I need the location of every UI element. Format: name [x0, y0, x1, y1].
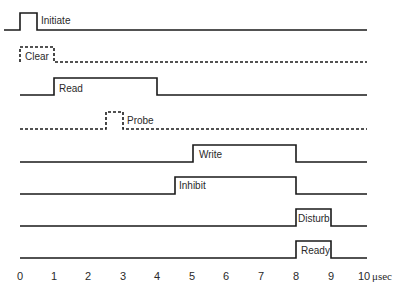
write-waveform	[20, 145, 367, 162]
tick-1: 1	[51, 270, 57, 282]
signal-disturb: Disturb	[20, 209, 367, 226]
signal-clear: Clear	[20, 47, 367, 62]
clear-waveform	[20, 47, 367, 62]
time-unit-label: μsec	[372, 270, 392, 282]
time-axis: 0 1 2 3 4 5 6 7 8 9 10 μsec	[17, 270, 392, 282]
signal-initiate: Initiate	[4, 13, 367, 30]
tick-7: 7	[258, 270, 264, 282]
disturb-label: Disturb	[298, 213, 330, 224]
tick-6: 6	[223, 270, 229, 282]
write-label: Write	[199, 149, 223, 160]
tick-4: 4	[154, 270, 160, 282]
clear-label: Clear	[25, 51, 50, 62]
signal-inhibit: Inhibit	[20, 177, 367, 194]
initiate-label: Initiate	[41, 15, 71, 26]
signal-write: Write	[20, 145, 367, 162]
signal-ready: Ready	[20, 241, 367, 258]
probe-label: Probe	[127, 115, 154, 126]
tick-3: 3	[120, 270, 126, 282]
read-label: Read	[59, 83, 83, 94]
probe-waveform	[20, 112, 367, 129]
tick-9: 9	[328, 270, 334, 282]
tick-8: 8	[293, 270, 299, 282]
signal-read: Read	[20, 78, 367, 95]
timing-diagram: Initiate Clear Read Probe Write Inhibit …	[0, 0, 400, 300]
tick-0: 0	[17, 270, 23, 282]
tick-5: 5	[189, 270, 195, 282]
inhibit-label: Inhibit	[179, 180, 206, 191]
tick-2: 2	[85, 270, 91, 282]
tick-10: 10	[358, 270, 370, 282]
signal-probe: Probe	[20, 112, 367, 129]
ready-label: Ready	[301, 245, 330, 256]
